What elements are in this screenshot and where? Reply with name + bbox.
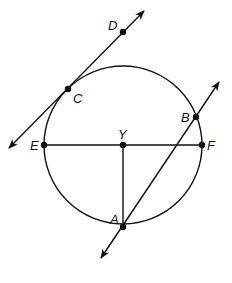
point-E	[41, 142, 47, 148]
point-D	[120, 29, 126, 35]
point-B	[193, 114, 199, 120]
secant-line-AB	[101, 82, 219, 258]
point-F	[199, 142, 205, 148]
segments	[44, 145, 202, 227]
label-D: D	[108, 18, 117, 33]
label-E: E	[30, 138, 39, 153]
point-A	[120, 224, 126, 230]
label-A: A	[109, 212, 119, 227]
point-Y	[120, 142, 126, 148]
circle-diagram: DCBEYFA	[0, 0, 232, 283]
label-C: C	[73, 91, 83, 106]
label-F: F	[207, 138, 216, 153]
label-B: B	[181, 110, 190, 125]
point-C	[65, 86, 71, 92]
label-Y: Y	[118, 127, 128, 142]
